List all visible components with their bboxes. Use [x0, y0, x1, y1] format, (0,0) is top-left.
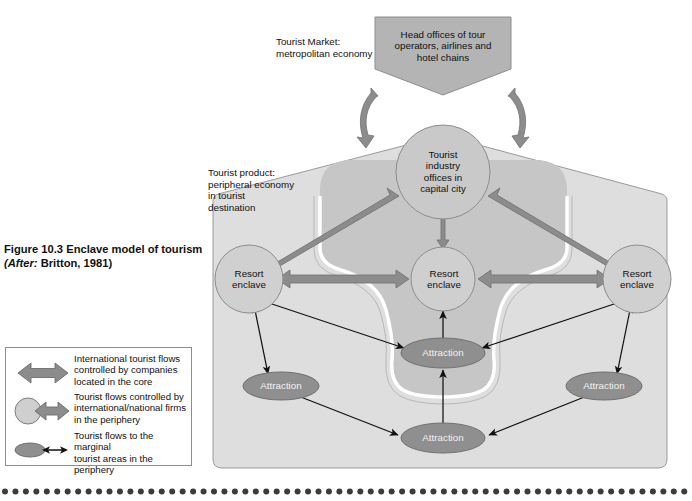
annotation-tourist-product: Tourist product: peripheral economy in t… [208, 167, 308, 213]
legend-item-1-label: Tourist flows controlled by internationa… [74, 391, 192, 425]
legend-item-2: Tourist flows to the marginal tourist ar… [6, 431, 193, 469]
node-attraction-bottom[interactable] [401, 423, 485, 453]
legend-item-0: International tourist flows controlled b… [6, 354, 193, 392]
circle-with-double-headed-thick-arrow-icon [14, 392, 72, 430]
node-resort-enclave-left[interactable] [215, 245, 283, 313]
arrow-headoffice-capital-right [508, 88, 529, 148]
node-resort-enclave-centre[interactable] [411, 247, 475, 311]
legend-item-0-label: International tourist flows controlled b… [74, 353, 192, 387]
figure-root: Head offices of tour operators, airlines… [0, 0, 692, 501]
legend-item-2-label: Tourist flows to the marginal tourist ar… [74, 430, 192, 476]
figure-source-rest: Britton, 1981) [38, 257, 113, 269]
legend-item-1: Tourist flows controlled by internationa… [6, 392, 193, 430]
node-attraction-left[interactable] [243, 372, 319, 400]
legend-box: International tourist flows controlled b… [5, 347, 192, 466]
node-resort-enclave-right[interactable] [603, 245, 671, 313]
arrow-headoffice-capital-left [357, 88, 378, 148]
annotation-tourist-market: Tourist Market: metropolitan economy [276, 36, 386, 59]
figure-source-prefix: (After: [4, 257, 38, 269]
node-attraction-centre[interactable] [401, 338, 485, 368]
ellipse-with-thin-double-headed-arrow-icon [14, 431, 72, 469]
figure-title: Figure 10.3 Enclave model of tourism [4, 243, 202, 255]
node-head-offices[interactable] [375, 17, 511, 95]
node-attraction-right[interactable] [566, 372, 642, 400]
figure-caption: Figure 10.3 Enclave model of tourism (Af… [4, 243, 204, 270]
node-tourist-industry-offices[interactable] [396, 125, 490, 219]
double-headed-thick-arrow-icon [14, 354, 72, 392]
decorative-dot-rule [0, 486, 692, 497]
